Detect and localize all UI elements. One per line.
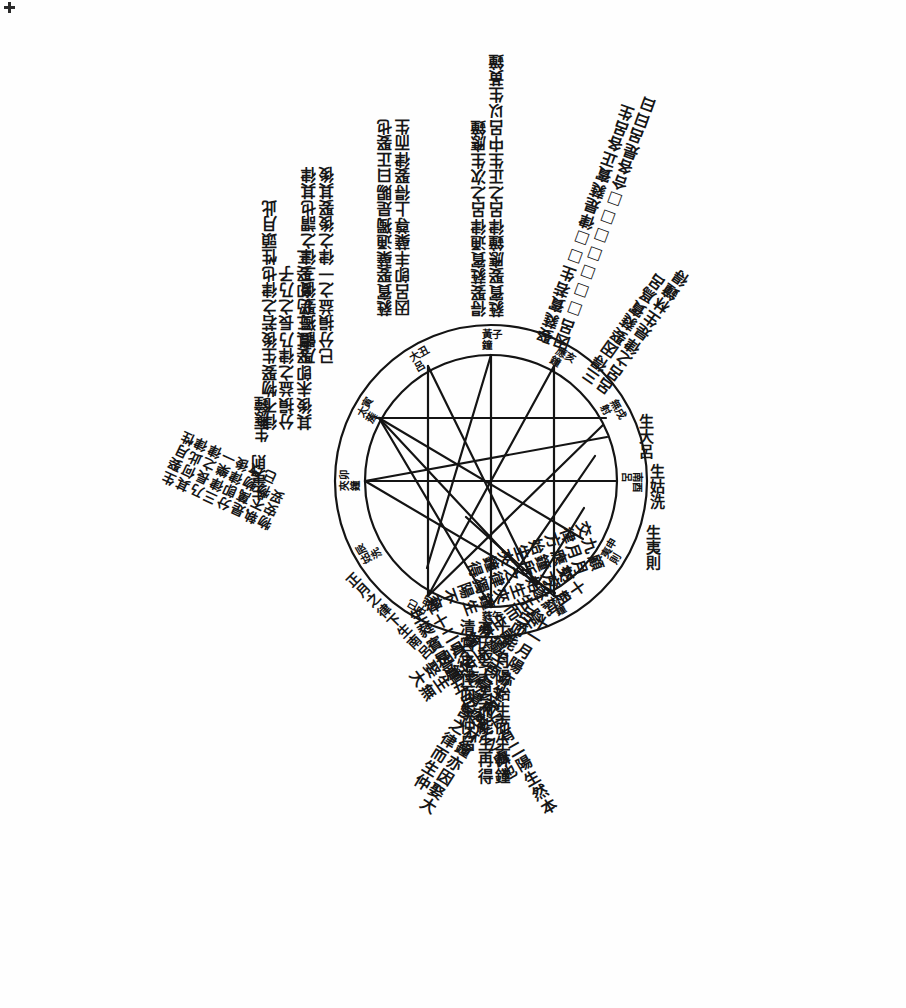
annotation-column: 律不物娶生後若之律也性頭月此: [262, 199, 279, 430]
spoke-heading-4: 生夷則: [252, 451, 269, 500]
annotation-column: 娶蕤賓若生□□律是蕤賓正各呂生: [535, 103, 638, 347]
annotation-column: 其何此律: [175, 436, 213, 495]
annotation-column: 蕤賓娶蘗通獨是賜曰正娶也: [377, 118, 394, 316]
annotation-column: 分損益之律乃長之乃子: [279, 265, 296, 430]
diagram-page: 黃鐘子大呂丑太蔟寅夾鐘卯姑洗辰中呂巳蕤賓午林鐘未夷則申南呂酉無射戌應鐘亥 清宮之…: [0, 0, 906, 1008]
annotation-column: 因呂卽丰蘗尊上得娶律而生: [395, 118, 412, 316]
annotation-column: 其後未卽娶其三仍卽娶三: [297, 249, 314, 431]
ray-wnw-8: 物安妥執不物已是萬物改分卽律後三律樂一乃長之律其何此律生娶月性: [161, 430, 295, 534]
annotation-column: 十一月陽始生而生林鐘: [493, 619, 510, 784]
annotation-column: 執不物已: [243, 468, 281, 527]
annotation-column: 三律樂一: [202, 449, 240, 508]
ray-n-10: 因呂卽丰蘗尊上得娶律而生蕤賓娶蘗通獨是賜曰正娶也: [377, 118, 412, 316]
chord-network: [365, 355, 617, 607]
lulu-circle-diagram: 黃鐘子大呂丑太蔟寅夾鐘卯姑洗辰中呂巳蕤賓午林鐘未夷則申南呂酉無射戌應鐘亥: [331, 321, 651, 641]
spoke-heading-text: 生夷則: [252, 455, 269, 500]
ray-ne-12: 因呂□□□□□□□合各是呂曰曰娶蕤賓若生□□律是蕤賓正各呂生: [535, 89, 659, 353]
spoke-heading-text: 生應鐘: [255, 397, 272, 442]
ray-nw-7: 其後未卽娶其三仍卽娶三分損益之律乃長之乃子律不物娶生後若之律也性頭月此: [262, 199, 314, 430]
ray-nne-11: 蕤賓娶應鐘律呂之正生中呂以生黃鐘得娶蕤賓通律呂之次生應鐘: [471, 53, 506, 317]
annotation-column: 乃體獨娶後三律之謂也其律: [302, 166, 319, 364]
annotation-column: 生娶月性: [161, 430, 199, 489]
ray-se-1: 清宮之律而生仲呂亦因娶大呂而能生再得十一月陽始生而生林鐘: [458, 619, 510, 784]
annotation-column: 是萬物改: [229, 462, 267, 521]
annotation-column: 乃長之律: [188, 442, 226, 501]
annotation-column: 蕤賓娶應鐘律呂之正生中呂以生黃鐘: [489, 53, 506, 317]
annotation-column: 分卽律後: [216, 455, 254, 514]
wheel-svg: [331, 321, 651, 641]
annotation-column: 十一月陽亦生而生林鐘亦因娶大: [415, 611, 552, 816]
registration-tick-icon: [4, 2, 15, 13]
annotation-column: 物安妥: [257, 488, 289, 534]
spoke-heading-3: 生應鐘: [255, 393, 272, 442]
annotation-column: 亦因娶大呂而能生再得: [475, 619, 492, 784]
annotation-column: 因呂□□□□□□□合各是呂曰曰: [552, 95, 660, 353]
annotation-column: 得娶蕤賓通律呂之次生應鐘: [471, 119, 488, 317]
